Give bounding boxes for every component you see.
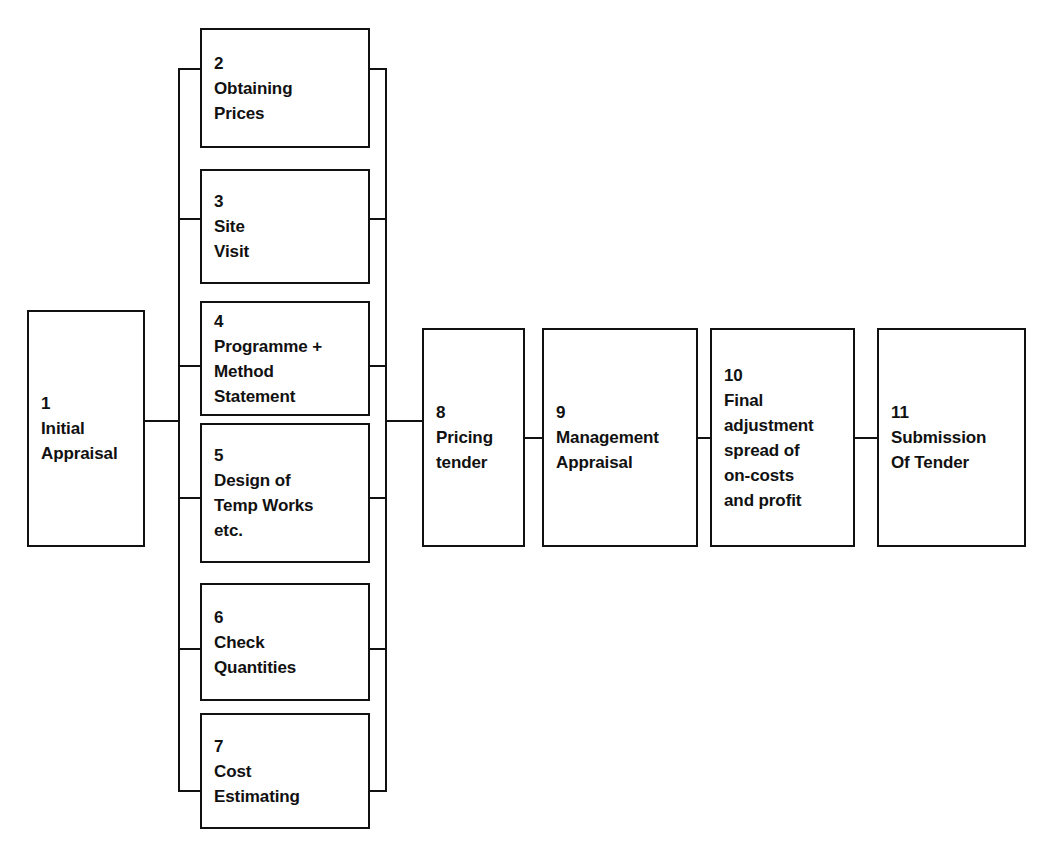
flowchart-node-3-label-line-2: Visit bbox=[214, 239, 249, 264]
link-9-to-10 bbox=[697, 437, 711, 439]
link-right-bus-to-8 bbox=[385, 420, 424, 422]
flowchart-node-7-label-line-1: Cost bbox=[214, 759, 251, 784]
flowchart-node-11[interactable]: 11SubmissionOf Tender bbox=[877, 328, 1026, 547]
flowchart-node-5-label-line-3: etc. bbox=[214, 518, 243, 543]
right-stub-node-3 bbox=[368, 218, 387, 220]
link-10-to-11 bbox=[854, 437, 878, 439]
flowchart-node-4-label-line-3: Statement bbox=[214, 384, 295, 409]
flowchart-node-10[interactable]: 10Finaladjustmentspread ofon-costsand pr… bbox=[710, 328, 855, 547]
left-stub-node-6 bbox=[178, 648, 202, 650]
left-bus-vertical bbox=[178, 68, 180, 792]
flowchart-node-9-label-line-1: Management bbox=[556, 425, 659, 450]
flowchart-node-5-label-line-2: Temp Works bbox=[214, 493, 313, 518]
flowchart-node-6-label-line-1: Check bbox=[214, 630, 265, 655]
flowchart-node-11-label-line-1: Submission bbox=[891, 425, 986, 450]
flowchart-node-6-number: 6 bbox=[214, 605, 223, 630]
flowchart-canvas: 1InitialAppraisal2ObtainingPrices3SiteVi… bbox=[0, 0, 1053, 852]
flowchart-node-9[interactable]: 9ManagementAppraisal bbox=[542, 328, 698, 547]
flowchart-node-10-label-line-2: adjustment bbox=[724, 413, 814, 438]
flowchart-node-2-number: 2 bbox=[214, 51, 223, 76]
flowchart-node-8[interactable]: 8Pricingtender bbox=[422, 328, 525, 547]
flowchart-node-8-number: 8 bbox=[436, 400, 445, 425]
flowchart-node-10-label-line-1: Final bbox=[724, 388, 763, 413]
flowchart-node-7-number: 7 bbox=[214, 734, 223, 759]
flowchart-node-10-number: 10 bbox=[724, 363, 743, 388]
right-stub-node-5 bbox=[368, 497, 387, 499]
right-bus-vertical bbox=[385, 68, 387, 792]
flowchart-node-4[interactable]: 4Programme +MethodStatement bbox=[200, 301, 370, 416]
flowchart-node-7[interactable]: 7CostEstimating bbox=[200, 713, 370, 829]
flowchart-node-4-number: 4 bbox=[214, 309, 223, 334]
flowchart-node-6-label-line-2: Quantities bbox=[214, 655, 296, 680]
left-stub-node-2 bbox=[178, 68, 202, 70]
flowchart-node-9-label-line-2: Appraisal bbox=[556, 450, 633, 475]
flowchart-node-1-label-line-1: Initial bbox=[41, 416, 85, 441]
flowchart-node-2[interactable]: 2ObtainingPrices bbox=[200, 28, 370, 148]
flowchart-node-11-label-line-2: Of Tender bbox=[891, 450, 969, 475]
link-8-to-9 bbox=[524, 437, 543, 439]
flowchart-node-1[interactable]: 1InitialAppraisal bbox=[27, 310, 145, 547]
flowchart-node-6[interactable]: 6CheckQuantities bbox=[200, 583, 370, 701]
right-stub-node-4 bbox=[368, 365, 387, 367]
flowchart-node-2-label-line-2: Prices bbox=[214, 101, 264, 126]
flowchart-node-1-label-line-2: Appraisal bbox=[41, 441, 118, 466]
left-stub-node-5 bbox=[178, 497, 202, 499]
flowchart-node-10-label-line-3: spread of bbox=[724, 438, 800, 463]
flowchart-node-3-number: 3 bbox=[214, 189, 223, 214]
flowchart-node-3-label-line-1: Site bbox=[214, 214, 245, 239]
flowchart-node-11-number: 11 bbox=[891, 400, 909, 425]
flowchart-node-10-label-line-4: on-costs bbox=[724, 463, 794, 488]
right-stub-node-2 bbox=[368, 68, 387, 70]
flowchart-node-9-number: 9 bbox=[556, 400, 565, 425]
flowchart-node-5[interactable]: 5Design ofTemp Worksetc. bbox=[200, 423, 370, 563]
left-stub-node-3 bbox=[178, 218, 202, 220]
flowchart-node-4-label-line-2: Method bbox=[214, 359, 274, 384]
flowchart-node-5-number: 5 bbox=[214, 443, 223, 468]
left-stub-node-7 bbox=[178, 790, 202, 792]
flowchart-node-4-label-line-1: Programme + bbox=[214, 334, 322, 359]
link-1-to-left-bus bbox=[145, 420, 180, 422]
right-stub-node-7 bbox=[368, 790, 387, 792]
flowchart-node-2-label-line-1: Obtaining bbox=[214, 76, 292, 101]
left-stub-node-4 bbox=[178, 365, 202, 367]
flowchart-node-8-label-line-2: tender bbox=[436, 450, 487, 475]
right-stub-node-6 bbox=[368, 648, 387, 650]
flowchart-node-7-label-line-2: Estimating bbox=[214, 784, 300, 809]
flowchart-node-10-label-line-5: and profit bbox=[724, 488, 801, 513]
flowchart-node-3[interactable]: 3SiteVisit bbox=[200, 169, 370, 284]
flowchart-node-5-label-line-1: Design of bbox=[214, 468, 291, 493]
flowchart-node-8-label-line-1: Pricing bbox=[436, 425, 493, 450]
flowchart-node-1-number: 1 bbox=[41, 391, 50, 416]
